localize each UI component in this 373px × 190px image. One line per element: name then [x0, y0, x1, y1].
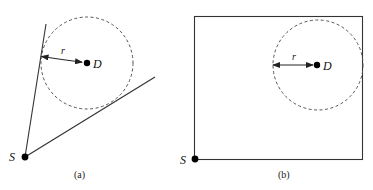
source-dot — [22, 154, 29, 161]
destination-dot — [84, 60, 90, 66]
radius-arrow-back — [42, 57, 63, 60]
boundary-line-left — [25, 24, 46, 157]
caption-a: (a) — [74, 169, 85, 181]
destination-dot — [314, 62, 320, 68]
caption-b: (b) — [278, 169, 290, 181]
destination-label: D — [322, 59, 332, 73]
source-label: S — [180, 153, 186, 167]
panel-b: r D S (b) — [180, 17, 363, 182]
destination-label: D — [92, 57, 102, 71]
radius-label: r — [292, 51, 296, 62]
diagram-canvas: r D S (a) r D S (b) — [0, 0, 373, 190]
radius-label: r — [61, 45, 65, 56]
boundary-rectangle — [195, 17, 363, 160]
source-label: S — [9, 150, 15, 164]
radius-arrow — [62, 60, 82, 63]
source-dot — [192, 156, 199, 163]
boundary-line-right — [25, 77, 155, 157]
panel-a: r D S (a) — [9, 17, 155, 181]
